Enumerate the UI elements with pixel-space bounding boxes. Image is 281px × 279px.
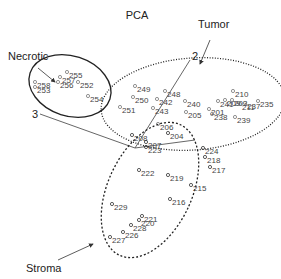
point-label: 253 <box>37 86 51 95</box>
point-label: 250 <box>135 96 149 105</box>
data-point: 205 <box>184 110 201 120</box>
necrotic-label: Necrotic <box>8 50 49 62</box>
point-label: 249 <box>137 85 151 94</box>
point-label: 226 <box>125 231 139 240</box>
data-points: 2552572562522582532542492482502422432512… <box>33 70 273 245</box>
point-label: 256 <box>60 81 74 90</box>
data-point: 216 <box>168 197 185 207</box>
data-point: 222 <box>137 168 154 178</box>
point-label: 251 <box>122 106 136 115</box>
group-arrows <box>38 40 210 260</box>
point-label: 223 <box>148 146 162 155</box>
data-point: 252 <box>76 80 93 90</box>
data-point: 250 <box>131 95 148 105</box>
point-label: 243 <box>155 107 169 116</box>
axis-label: 3 <box>32 108 38 120</box>
point-label: 222 <box>141 169 155 178</box>
necrotic-arrow <box>38 68 55 82</box>
data-point: 210 <box>231 89 248 99</box>
point-label: 218 <box>207 156 221 165</box>
point-label: 224 <box>205 147 219 156</box>
data-point: 253 <box>33 85 50 95</box>
data-point: 206 <box>156 122 173 132</box>
point-label: 208 <box>134 134 148 143</box>
point-label: 240 <box>187 100 201 109</box>
point-label: 254 <box>90 95 104 104</box>
data-point: 223 <box>144 145 161 155</box>
point-label: 219 <box>170 174 184 183</box>
point-label: 215 <box>193 184 207 193</box>
point-label: 235 <box>260 100 274 109</box>
data-point: 208 <box>130 133 147 143</box>
tumor-arrow <box>200 40 210 64</box>
data-point: 235 <box>256 99 273 109</box>
point-label: 242 <box>159 98 173 107</box>
stroma-label: Stroma <box>26 262 62 274</box>
point-label: 210 <box>235 90 249 99</box>
data-point: 219 <box>166 173 183 183</box>
data-point: 224 <box>201 146 218 156</box>
point-label: 227 <box>112 236 126 245</box>
data-point: 251 <box>118 105 135 115</box>
axis-line <box>40 114 135 148</box>
point-label: 252 <box>80 81 94 90</box>
data-point: 217 <box>208 165 225 175</box>
point-label: 238 <box>214 113 228 122</box>
data-point: 238 <box>210 112 227 122</box>
data-point: 249 <box>133 84 150 94</box>
point-label: 205 <box>188 111 202 120</box>
data-point: 243 <box>151 106 168 116</box>
data-point: 229 <box>110 202 127 212</box>
point-label: 217 <box>212 166 226 175</box>
data-point: 242 <box>155 97 172 107</box>
data-point: 215 <box>189 183 206 193</box>
stroma-arrow <box>58 244 93 260</box>
point-label: 237 <box>247 102 261 111</box>
point-label: 216 <box>172 198 186 207</box>
data-point: 239 <box>233 115 250 125</box>
point-label: 204 <box>170 132 184 141</box>
data-point: 227 <box>108 235 125 245</box>
data-point: 218 <box>203 155 220 165</box>
data-point: 254 <box>86 94 103 104</box>
chart-title: PCA <box>126 9 149 21</box>
data-point: 240 <box>183 99 200 109</box>
pca-plot: PCA 23 255257256252258253254249248250242… <box>0 0 281 279</box>
point-label: 206 <box>160 123 174 132</box>
axis-label: 2 <box>192 50 198 62</box>
point-label: 229 <box>114 203 128 212</box>
point-label: 239 <box>237 116 251 125</box>
data-point: 256 <box>56 80 73 90</box>
data-point: 204 <box>166 131 183 141</box>
tumor-label: Tumor <box>198 18 230 30</box>
